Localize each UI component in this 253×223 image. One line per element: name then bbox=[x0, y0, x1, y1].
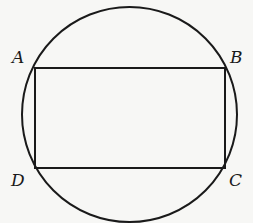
rectangle-abcd bbox=[35, 68, 225, 168]
vertex-label-d: D bbox=[10, 170, 25, 190]
vertex-label-b: B bbox=[229, 47, 243, 67]
vertex-label-c: C bbox=[229, 170, 242, 190]
diagram-canvas: A B C D bbox=[0, 0, 253, 223]
vertex-label-a: A bbox=[10, 47, 24, 67]
circumscribed-circle bbox=[22, 7, 237, 222]
